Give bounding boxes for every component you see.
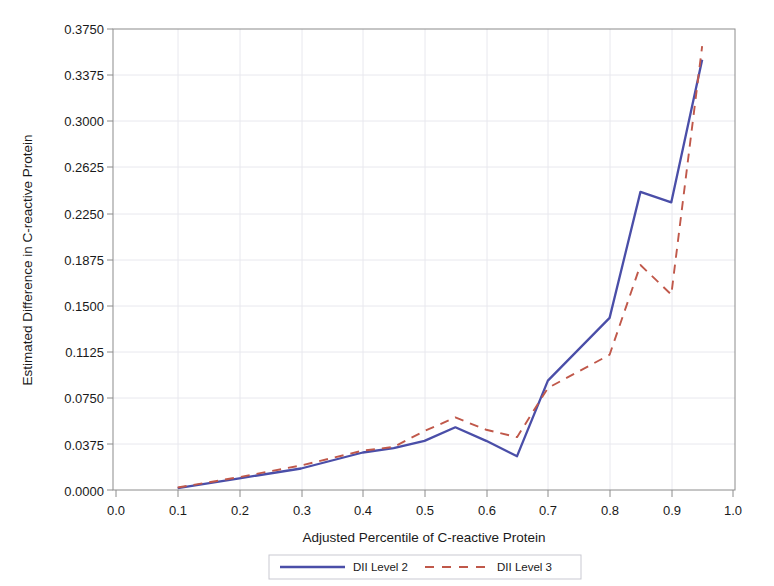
x-tick-label: 1.0	[724, 503, 742, 518]
x-axis-title: Adjusted Percentile of C-reactive Protei…	[302, 530, 545, 545]
chart-figure: Estimated Difference in C-reactive Prote…	[0, 0, 774, 586]
legend-label-dii-level-2: DII Level 2	[353, 561, 408, 573]
x-tick-label: 0.4	[354, 503, 372, 518]
y-tick-label: 0.2250	[64, 207, 104, 222]
figure-background	[0, 0, 774, 586]
chart-legend: DII Level 2 DII Level 3	[269, 555, 581, 579]
x-tick-label: 0.8	[601, 503, 619, 518]
y-tick-label: 0.0750	[64, 391, 104, 406]
y-tick-label: 0.0375	[64, 438, 104, 453]
y-tick-label: 0.1500	[64, 299, 104, 314]
legend-label-dii-level-3: DII Level 3	[497, 561, 552, 573]
x-tick-label: 0.9	[663, 503, 681, 518]
y-tick-label: 0.1875	[64, 253, 104, 268]
x-tick-label: 0.1	[169, 503, 187, 518]
y-tick-label: 0.3000	[64, 114, 104, 129]
y-tick-label: 0.0000	[64, 484, 104, 499]
x-tick-label: 0.0	[107, 503, 125, 518]
x-tick-label: 0.6	[478, 503, 496, 518]
x-tick-label: 0.5	[416, 503, 434, 518]
y-tick-label: 0.1125	[65, 345, 104, 360]
x-tick-label: 0.7	[539, 503, 557, 518]
y-axis-title: Estimated Difference in C-reactive Prote…	[20, 134, 35, 385]
y-tick-label: 0.3750	[64, 22, 104, 37]
x-tick-label: 0.2	[231, 503, 249, 518]
y-tick-label: 0.2625	[64, 160, 104, 175]
y-tick-label: 0.3375	[64, 68, 104, 83]
x-tick-label: 0.3	[293, 503, 311, 518]
